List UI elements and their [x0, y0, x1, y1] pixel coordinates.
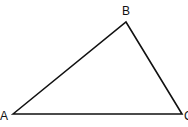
- triangle-abc: [13, 22, 182, 114]
- triangle-diagram: [0, 0, 188, 127]
- vertex-label-c: C: [184, 110, 188, 122]
- vertex-label-b: B: [122, 5, 130, 17]
- vertex-label-a: A: [0, 110, 8, 122]
